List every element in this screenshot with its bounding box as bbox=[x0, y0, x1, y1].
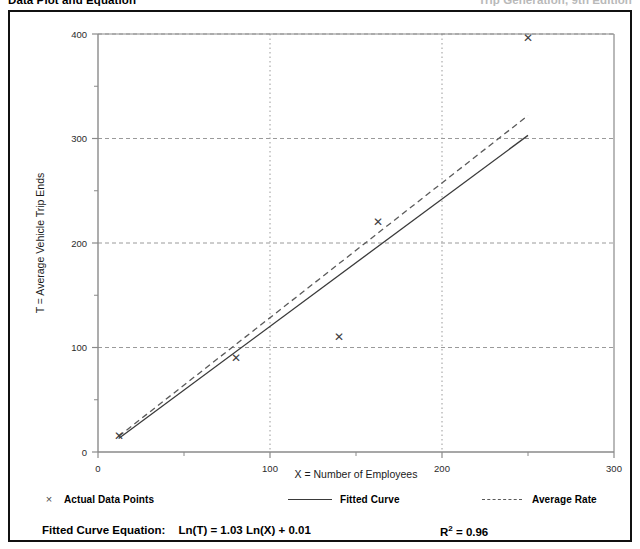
chart-tick-marks bbox=[92, 34, 614, 458]
series-line-average-rate bbox=[119, 116, 528, 437]
legend-label-average-rate: Average Rate bbox=[532, 494, 597, 505]
data-point-marker: ✕ bbox=[114, 429, 124, 443]
x-tick-label: 100 bbox=[262, 463, 278, 474]
chart-legend: × Actual Data Points Fitted Curve Averag… bbox=[10, 490, 630, 514]
document-heading-right-text: Trip Generation, 9th Edition bbox=[478, 0, 632, 6]
document-heading: Data Plot and Equation Trip Generation, … bbox=[8, 0, 632, 8]
data-point-marker: ✕ bbox=[373, 215, 383, 229]
r-squared-value: R2 = 0.96 bbox=[440, 524, 488, 538]
x-tick-label: 300 bbox=[606, 463, 622, 474]
data-point-marker: ✕ bbox=[523, 31, 533, 45]
document-heading-text: Data Plot and Equation bbox=[8, 0, 136, 6]
y-tick-label: 0 bbox=[82, 447, 87, 458]
y-axis-title: T = Average Vehicle Trip Ends bbox=[34, 173, 46, 314]
chart-plot-region: 01002003004000100200300 ✕✕✕✕✕ X = Number… bbox=[10, 12, 630, 482]
chart-tick-labels: 01002003004000100200300 bbox=[71, 29, 622, 475]
x-axis-title: X = Number of Employees bbox=[295, 468, 418, 480]
data-point-marker: ✕ bbox=[231, 351, 241, 365]
equation-row: Fitted Curve Equation: Ln(T) = 1.03 Ln(X… bbox=[10, 524, 630, 544]
x-tick-label: 200 bbox=[434, 463, 450, 474]
y-tick-label: 400 bbox=[71, 29, 87, 40]
r-squared-exponent: 2 bbox=[448, 524, 452, 533]
x-tick-label: 0 bbox=[95, 463, 100, 474]
series-line-fitted-curve bbox=[119, 135, 528, 438]
legend-item-average-rate: Average Rate bbox=[480, 490, 597, 508]
chart-axis-titles: X = Number of EmployeesT = Average Vehic… bbox=[34, 173, 417, 480]
y-tick-label: 300 bbox=[71, 133, 87, 144]
y-tick-label: 100 bbox=[71, 342, 87, 353]
r-squared-number: = 0.96 bbox=[456, 526, 488, 538]
legend-marker-x-icon: × bbox=[42, 494, 56, 504]
y-tick-label: 200 bbox=[71, 238, 87, 249]
equation-expression: Ln(T) = 1.03 Ln(X) + 0.01 bbox=[179, 524, 311, 536]
legend-item-actual-data-points: × Actual Data Points bbox=[42, 490, 154, 508]
legend-label-actual-data-points: Actual Data Points bbox=[64, 494, 154, 505]
scatter-chart: 01002003004000100200300 ✕✕✕✕✕ X = Number… bbox=[10, 12, 630, 482]
equation-caption: Fitted Curve Equation: bbox=[42, 524, 165, 536]
chart-gridlines bbox=[98, 34, 614, 452]
data-point-marker: ✕ bbox=[334, 330, 344, 344]
chart-data-points: ✕✕✕✕✕ bbox=[114, 31, 533, 443]
figure-frame: 01002003004000100200300 ✕✕✕✕✕ X = Number… bbox=[8, 10, 632, 542]
legend-dashed-line-icon bbox=[480, 494, 524, 504]
legend-label-fitted-curve: Fitted Curve bbox=[340, 494, 400, 505]
fitted-curve-equation: Fitted Curve Equation: Ln(T) = 1.03 Ln(X… bbox=[42, 524, 311, 536]
chart-series-lines bbox=[119, 116, 528, 439]
legend-item-fitted-curve: Fitted Curve bbox=[288, 490, 400, 508]
legend-solid-line-icon bbox=[288, 494, 332, 504]
